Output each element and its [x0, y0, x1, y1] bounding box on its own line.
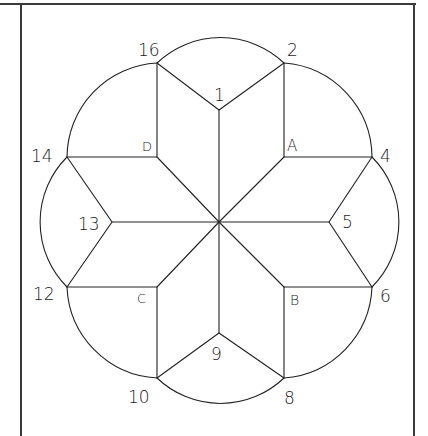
arc-4-6 [372, 157, 399, 287]
point-labels: 16 2 1 D A 14 4 13 5 12 6 C B 9 10 8 [31, 40, 391, 408]
label-A: A [287, 137, 297, 155]
arc-8-10 [157, 378, 284, 403]
label-4: 4 [380, 146, 391, 166]
spoke-C [157, 222, 219, 287]
label-12: 12 [33, 284, 55, 304]
label-13: 13 [78, 214, 100, 234]
spoke-A [219, 157, 284, 222]
label-5: 5 [342, 212, 353, 232]
spoke-B [219, 222, 284, 287]
arc-16-2 [157, 38, 284, 63]
diagram-canvas: 16 2 1 D A 14 4 13 5 12 6 C B 9 10 8 [0, 0, 428, 436]
label-8: 8 [284, 388, 295, 408]
arc-12-14 [40, 157, 67, 287]
label-10: 10 [128, 387, 150, 407]
label-6: 6 [380, 286, 391, 306]
label-2: 2 [287, 40, 298, 60]
label-1: 1 [214, 85, 225, 105]
label-D: D [142, 139, 152, 154]
spoke-D [157, 157, 219, 222]
label-14: 14 [31, 146, 53, 166]
label-B: B [290, 292, 299, 308]
label-9: 9 [211, 344, 222, 364]
label-16: 16 [138, 40, 160, 60]
label-C: C [137, 291, 146, 306]
